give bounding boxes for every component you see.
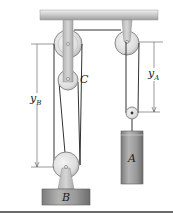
pulley-B xyxy=(53,152,79,189)
label-A: A xyxy=(128,153,136,164)
label-yA: yA xyxy=(148,68,159,82)
ceiling xyxy=(40,10,158,20)
label-yB-sub: B xyxy=(36,99,41,107)
pulley-system-diagram xyxy=(0,0,173,219)
label-C: C xyxy=(80,74,88,85)
label-yB: yB xyxy=(30,93,41,107)
label-yA-sub: A xyxy=(154,74,159,82)
pulley-A xyxy=(126,107,138,119)
left-bracket xyxy=(63,20,73,82)
label-B: B xyxy=(62,192,70,203)
fixed-pulley-right xyxy=(115,20,139,55)
